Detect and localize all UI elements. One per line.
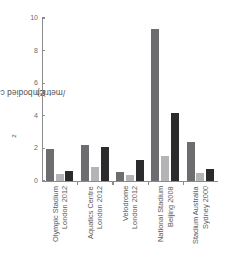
- x-axis-group-label: Aquatics CentreLondon 2012: [77, 186, 112, 271]
- x-axis-group-label: National StadiumBeijing 2008: [148, 186, 183, 271]
- x-tick-mark: [148, 182, 149, 185]
- x-axis-label-line: Aquatics Centre: [85, 186, 94, 271]
- bar: [171, 113, 179, 181]
- x-tick-mark: [112, 182, 113, 185]
- x-tick-mark: [183, 182, 184, 185]
- bar: [91, 167, 99, 181]
- bar: [136, 160, 144, 180]
- bar-chart: Embodied carbon (t CO2/metric) 0246810 O…: [0, 0, 229, 271]
- y-tick-label: 10: [22, 13, 42, 23]
- x-axis-label-line: London 2012: [130, 186, 139, 271]
- bar: [187, 142, 195, 181]
- x-axis-label-line: Sydney 2000: [200, 186, 209, 271]
- y-tick-mark: [42, 17, 45, 18]
- bar: [196, 173, 204, 181]
- bar: [46, 149, 54, 181]
- x-tick-mark: [77, 182, 78, 185]
- y-axis-line: [42, 18, 43, 182]
- y-tick-label: 4: [22, 111, 42, 121]
- x-axis-label-line: London 2012: [60, 186, 69, 271]
- y-tick-label: 8: [22, 46, 42, 56]
- x-axis-label-line: London 2012: [95, 186, 104, 271]
- bar: [81, 145, 89, 181]
- x-axis-labels: Olympic StadiumLondon 2012Aquatics Centr…: [42, 186, 218, 271]
- x-axis-group-label: VelodromeLondon 2012: [112, 186, 147, 271]
- bar: [56, 174, 64, 181]
- y-tick-label: 2: [22, 143, 42, 153]
- x-axis-group-label: Stadium AustraliaSydney 2000: [183, 186, 218, 271]
- y-axis-title-subscript: 2: [10, 134, 17, 138]
- x-axis-label-line: National Stadium: [156, 186, 165, 271]
- x-axis-label-line: Stadium Australia: [191, 186, 200, 271]
- x-axis-label-line: Beijing 2008: [165, 186, 174, 271]
- bar: [126, 175, 134, 181]
- y-axis-title: Embodied carbon (t CO2/metric): [0, 0, 22, 186]
- bar: [161, 156, 169, 180]
- x-axis-label-line: Olympic Stadium: [50, 186, 59, 271]
- x-axis-label-line: Velodrome: [121, 186, 130, 271]
- bar: [116, 172, 124, 181]
- y-tick-mark: [42, 50, 45, 51]
- plot-area: 0246810: [42, 18, 218, 182]
- x-axis-line: [42, 181, 218, 182]
- y-tick-mark: [42, 115, 45, 116]
- y-tick-label: 0: [22, 176, 42, 186]
- bar: [65, 171, 73, 180]
- bar: [206, 169, 214, 181]
- bar: [101, 147, 109, 181]
- y-tick-mark: [42, 83, 45, 84]
- y-tick-label: 6: [22, 78, 42, 88]
- x-axis-group-label: Olympic StadiumLondon 2012: [42, 186, 77, 271]
- bar: [151, 29, 159, 181]
